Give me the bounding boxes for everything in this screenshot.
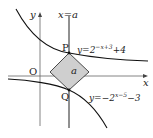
lower-curve-equation: y=−2x−5−3 (89, 92, 140, 103)
point-q-label: Q (61, 92, 69, 102)
lower-curve (8, 79, 107, 128)
square-label: a (71, 66, 77, 76)
vertical-line-label: x=a (58, 10, 78, 20)
square-region (50, 53, 89, 90)
y-axis-arrow-icon (38, 12, 42, 17)
point-p-label: P (62, 43, 69, 53)
y-axis-label: y (30, 10, 36, 20)
origin-label: O (29, 67, 37, 77)
x-axis-label: x (143, 78, 149, 88)
upper-curve-equation: y=2−x+3+4 (77, 44, 126, 55)
